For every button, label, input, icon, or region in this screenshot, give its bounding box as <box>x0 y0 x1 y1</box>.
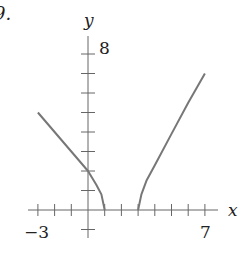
x-axis-label: x <box>228 200 238 220</box>
axes <box>28 36 218 238</box>
function-graph: 9. y x 8 −3 7 <box>0 0 247 264</box>
x-tick-label-min: −3 <box>24 222 49 242</box>
problem-label: 9. <box>0 3 11 24</box>
x-tick-label-max: 7 <box>200 222 211 242</box>
y-tick-label-max: 8 <box>99 38 110 58</box>
y-axis-label: y <box>83 10 94 30</box>
right-branch-curve <box>138 74 205 211</box>
curves <box>38 74 205 211</box>
left-branch-curve <box>38 113 105 211</box>
